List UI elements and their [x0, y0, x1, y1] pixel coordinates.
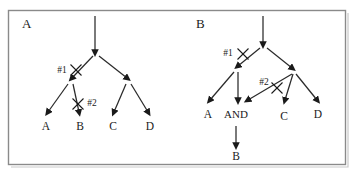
edge-b-root-left — [238, 48, 260, 66]
panel-a: A#1#2ABCD — [22, 16, 154, 132]
node-label-b-leaf-A: A — [204, 108, 213, 120]
cut-label-num1: #1 — [223, 48, 233, 58]
edge-b-right-D — [296, 74, 317, 100]
edge-b-cross-AND — [248, 74, 292, 100]
edge-a-right-C — [114, 84, 126, 112]
node-label-a-leaf-B: B — [76, 120, 84, 132]
node-label-b-leaf-B: B — [232, 150, 240, 162]
node-label-a-leaf-D: D — [146, 120, 154, 132]
edge-a-root-right — [99, 56, 127, 78]
cut-mark-b-cut-1: #1 — [223, 48, 248, 60]
panel-letter-a: A — [22, 16, 32, 31]
node-label-b-leaf-AND: AND — [224, 108, 248, 120]
edge-b-root-right — [267, 48, 292, 68]
cut-label-num1: #1 — [57, 65, 67, 75]
edge-a-right-D — [131, 84, 148, 112]
tree-diagram-svg: A#1#2ABCD B#1#2AANDCDB — [0, 0, 354, 177]
figure-frame — [9, 11, 346, 165]
edge-a-left-A — [48, 84, 68, 112]
node-label-b-leaf-C: C — [280, 110, 288, 122]
edge-b-left-A — [210, 72, 234, 100]
panel-b: B#1#2AANDCDB — [196, 16, 322, 162]
edge-a-root-left — [72, 56, 93, 78]
panel-letter-b: B — [196, 16, 205, 31]
node-label-b-leaf-D: D — [314, 108, 322, 120]
cut-label-num2: #2 — [259, 77, 269, 87]
cut-mark-a-cut-1: #1 — [57, 65, 81, 76]
node-label-a-leaf-A: A — [42, 120, 51, 132]
node-label-a-leaf-C: C — [109, 120, 117, 132]
figure-frame-shadow — [11, 13, 348, 167]
figure-container: A#1#2ABCD B#1#2AANDCDB — [0, 0, 354, 177]
cut-label-num2: #2 — [87, 98, 97, 108]
